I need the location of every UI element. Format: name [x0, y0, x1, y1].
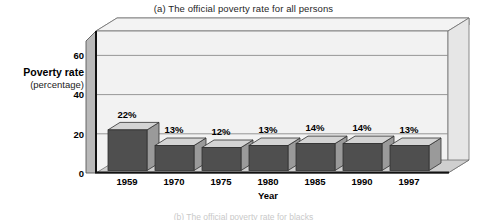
bar-1980	[249, 138, 300, 171]
poverty-rate-chart: (a) The official poverty rate for all pe…	[0, 0, 487, 220]
next-panel-caption: (b) The official poverty rate for blacks	[0, 212, 487, 220]
bar-1985	[296, 136, 347, 170]
bar-1975	[202, 140, 253, 171]
plot-left-wall	[86, 31, 96, 173]
x-tick-label-1990: 1990	[341, 176, 383, 187]
plot-area	[0, 0, 487, 220]
bar-value-label-1985: 14%	[295, 122, 335, 133]
bar-value-label-1959: 22%	[107, 109, 147, 120]
bar-1990	[343, 136, 394, 170]
plot-right-wall	[448, 18, 469, 173]
x-axis-title: Year	[238, 190, 298, 201]
bar-1970	[155, 138, 206, 171]
x-tick-label-1970: 1970	[153, 176, 195, 187]
x-tick-label-1980: 1980	[247, 176, 289, 187]
plot-ceiling-top	[96, 18, 469, 31]
x-tick-label-1985: 1985	[294, 176, 336, 187]
bar-1997	[390, 138, 441, 171]
x-tick-label-1959: 1959	[106, 176, 148, 187]
bar-value-label-1975: 12%	[201, 126, 241, 137]
x-tick-label-1975: 1975	[200, 176, 242, 187]
bar-value-label-1980: 13%	[248, 124, 288, 135]
x-tick-label-1997: 1997	[388, 176, 430, 187]
bar-1959	[108, 122, 159, 170]
bar-value-label-1970: 13%	[154, 124, 194, 135]
bar-value-label-1990: 14%	[342, 122, 382, 133]
bar-value-label-1997: 13%	[389, 124, 429, 135]
